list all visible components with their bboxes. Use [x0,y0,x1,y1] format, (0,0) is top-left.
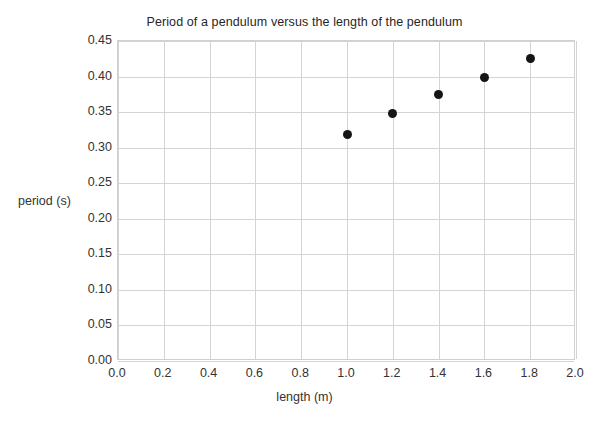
data-point [388,109,397,118]
gridline-vertical [439,41,440,359]
y-axis-tick-labels: 0.000.050.100.150.200.250.300.350.400.45 [60,40,112,360]
data-point [343,130,352,139]
plot-area [117,40,575,360]
chart-title: Period of a pendulum versus the length o… [0,15,609,29]
gridline-horizontal [118,41,574,42]
y-axis-tick-label: 0.10 [64,282,112,296]
data-point [434,90,443,99]
gridline-horizontal [118,325,574,326]
gridline-vertical [576,41,577,359]
x-axis-tick-label: 0.8 [275,366,325,380]
y-axis-tick-label: 0.40 [64,69,112,83]
y-axis-tick-label: 0.05 [64,317,112,331]
x-axis-tick-label: 0.0 [92,366,142,380]
gridline-vertical [118,41,119,359]
gridline-horizontal [118,254,574,255]
y-axis-tick-label: 0.30 [64,140,112,154]
gridline-horizontal [118,361,574,362]
gridline-vertical [301,41,302,359]
y-axis-tick-label: 0.15 [64,246,112,260]
gridline-vertical [347,41,348,359]
x-axis-tick-labels: 0.00.20.40.60.81.01.21.41.61.82.0 [117,366,575,386]
y-axis-tick-label: 0.25 [64,175,112,189]
x-axis-tick-label: 1.8 [504,366,554,380]
gridline-vertical [164,41,165,359]
gridline-vertical [530,41,531,359]
y-axis-tick-label: 0.00 [64,353,112,367]
y-axis-tick-label: 0.45 [64,33,112,47]
x-axis-tick-label: 1.2 [367,366,417,380]
x-axis-tick-label: 0.2 [138,366,188,380]
y-axis-tick-label: 0.20 [64,211,112,225]
y-axis-tick-label: 0.35 [64,104,112,118]
data-point [526,54,535,63]
x-axis-tick-label: 1.4 [413,366,463,380]
x-axis-tick-label: 1.6 [458,366,508,380]
chart-page: Period of a pendulum versus the length o… [0,0,609,421]
gridline-vertical [484,41,485,359]
gridline-vertical [393,41,394,359]
gridline-vertical [255,41,256,359]
x-axis-label: length (m) [0,390,609,404]
data-point [480,73,489,82]
gridline-horizontal [118,112,574,113]
gridline-horizontal [118,183,574,184]
x-axis-tick-label: 2.0 [550,366,600,380]
gridline-vertical [210,41,211,359]
x-axis-tick-label: 0.4 [184,366,234,380]
x-axis-tick-label: 0.6 [229,366,279,380]
x-axis-tick-label: 1.0 [321,366,371,380]
gridline-horizontal [118,77,574,78]
gridline-horizontal [118,148,574,149]
gridline-horizontal [118,219,574,220]
gridline-horizontal [118,290,574,291]
